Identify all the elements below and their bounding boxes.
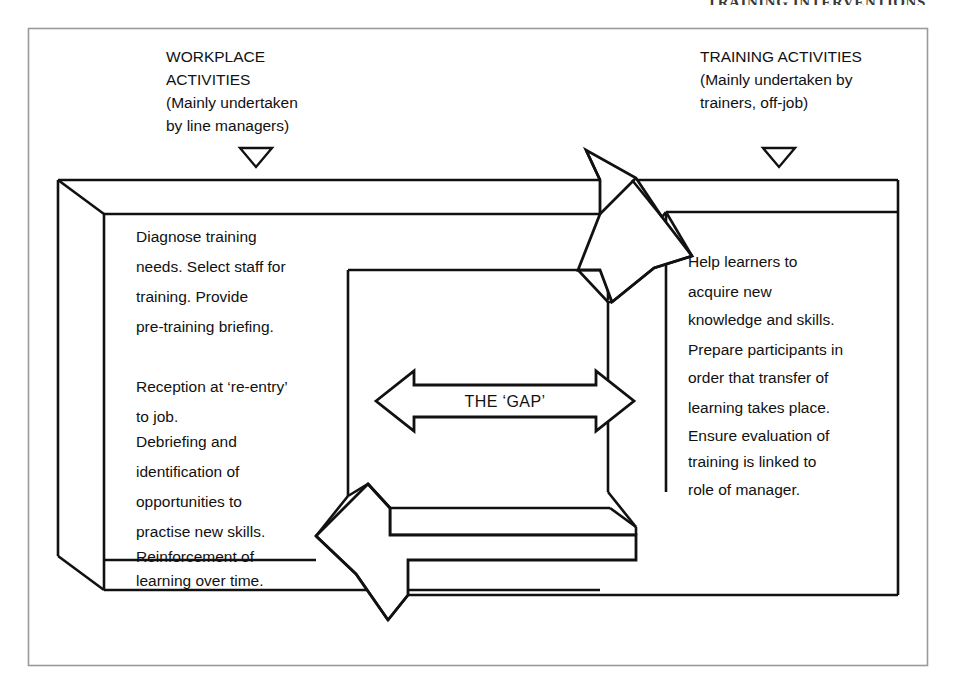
training-p0-line-6: Ensure evaluation of: [688, 427, 830, 444]
workplace-p1-line-7: learning over time.: [136, 572, 264, 589]
workplace-p1-line-5: practise new skills.: [136, 523, 265, 540]
workplace-p1-line-0: Reception at ‘re-entry’: [136, 378, 288, 395]
training-p0-line-8: role of manager.: [688, 481, 800, 498]
workplace-p1-line-2: Debriefing and: [136, 433, 237, 450]
block-arrow-left-icon: [316, 484, 636, 620]
workplace-p1-line-1: to job.: [136, 408, 178, 425]
diagram-page: TRAINING INTERVENTIONS WORKPLACE ACTIVIT…: [0, 0, 960, 698]
workplace-heading-line-0: WORKPLACE: [166, 48, 265, 65]
training-heading-line-2: trainers, off-job): [700, 94, 808, 111]
training-p0-line-0: Help learners to: [688, 253, 797, 270]
workplace-p1-line-6: Reinforcement of: [136, 548, 255, 565]
workplace-activities-heading: WORKPLACE ACTIVITIES (Mainly undertaken …: [166, 48, 298, 134]
training-activities-heading: TRAINING ACTIVITIES (Mainly undertaken b…: [700, 48, 862, 111]
workplace-p0-line-3: pre-training briefing.: [136, 318, 274, 335]
gap-label: THE ‘GAP’: [465, 393, 546, 410]
running-header: TRAINING INTERVENTIONS: [707, 0, 926, 5]
workplace-to-training-arrow: [578, 150, 692, 302]
training-heading-line-1: (Mainly undertaken by: [700, 71, 853, 88]
workplace-p1-line-3: identification of: [136, 463, 240, 480]
training-p0-line-1: acquire new: [688, 283, 772, 300]
workplace-p1-line-4: opportunities to: [136, 493, 242, 510]
down-triangle-icon: [763, 148, 795, 167]
diagram-canvas: WORKPLACE ACTIVITIES (Mainly undertaken …: [0, 0, 960, 698]
workplace-body-text: Diagnose training needs. Select staff fo…: [136, 228, 288, 589]
workplace-p0-line-1: needs. Select staff for: [136, 258, 286, 275]
down-triangle-icon: [240, 148, 272, 167]
workplace-heading-line-1: ACTIVITIES: [166, 71, 250, 88]
training-p0-line-5: learning takes place.: [688, 399, 830, 416]
training-p0-line-7: training is linked to: [688, 453, 816, 470]
training-heading-line-0: TRAINING ACTIVITIES: [700, 48, 862, 65]
training-p0-line-4: order that transfer of: [688, 369, 829, 386]
workplace-heading-line-3: by line managers): [166, 117, 289, 134]
workplace-p0-line-2: training. Provide: [136, 288, 248, 305]
training-body-text: Help learners to acquire new knowledge a…: [688, 253, 843, 498]
training-p0-line-2: knowledge and skills.: [688, 311, 834, 328]
workplace-heading-line-2: (Mainly undertaken: [166, 94, 298, 111]
training-p0-line-3: Prepare participants in: [688, 341, 843, 358]
workplace-p0-line-0: Diagnose training: [136, 228, 257, 245]
